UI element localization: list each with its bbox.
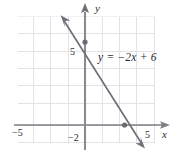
equation-annotation: y = −2x + 6 [98,52,157,64]
x-tick-label-5: 5 [145,130,150,140]
x-axis-label: x [162,129,167,140]
graph-figure: y x 5 −5 5 −2 y = −2x + 6 [0,0,177,160]
y-tick-label-negative-2: −2 [68,133,79,143]
y-tick-label-5: 5 [70,47,75,57]
y-intercept-point [82,39,87,44]
x-axis [14,121,170,129]
y-axis-label: y [95,3,100,14]
y-axis [81,3,89,150]
y-axis-arrowhead [81,3,89,13]
x-tick-label-negative-5: −5 [12,128,23,138]
x-intercept-point [122,122,127,127]
coordinate-plane-svg [0,0,177,160]
